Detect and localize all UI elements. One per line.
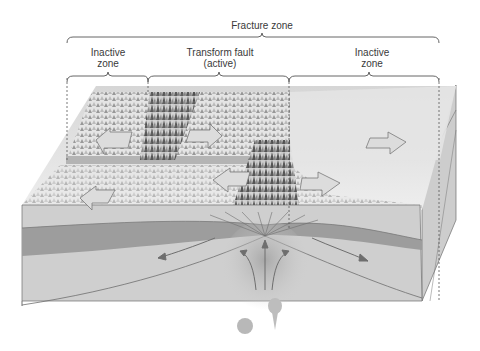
inactive-zone-right-bracket <box>289 72 439 82</box>
inactive-zone-left-line1: Inactive <box>78 47 138 58</box>
fracture-zone-text: Fracture zone <box>231 20 293 31</box>
inactive-zone-left-label: Inactive zone <box>78 47 138 69</box>
block-front-face <box>22 205 422 320</box>
transform-fault-bracket <box>148 72 289 82</box>
inactive-zone-right-label: Inactive zone <box>342 47 402 69</box>
inactive-zone-left-bracket <box>67 72 148 82</box>
inactive-zone-right-line2: zone <box>342 58 402 69</box>
transform-fault-label: Transform fault (active) <box>174 47 266 69</box>
inactive-zone-left-line2: zone <box>78 58 138 69</box>
fracture-zone-bracket <box>67 33 439 43</box>
transform-fault-line2: (active) <box>174 58 266 69</box>
fracture-zone-label: Fracture zone <box>212 20 312 31</box>
inactive-zone-right-line1: Inactive <box>342 47 402 58</box>
transform-fault-line1: Transform fault <box>174 47 266 58</box>
